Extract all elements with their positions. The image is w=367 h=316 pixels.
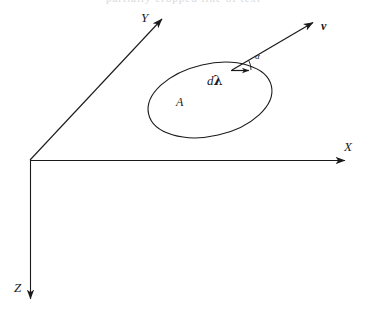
velocity-vector-arrow (232, 23, 313, 71)
diagram-canvas: partially cropped line of text X Y Z (0, 0, 367, 316)
loop-boundary (141, 51, 280, 149)
diagram-vector-graphics (0, 0, 367, 316)
line-element-label: dλ (207, 74, 223, 87)
velocity-vector-label: v (321, 20, 326, 32)
z-axis-label: Z (14, 281, 21, 294)
x-axis-label: X (344, 140, 352, 153)
y-axis-label: Y (141, 11, 148, 24)
line-element-label-lambda: λ (214, 73, 223, 88)
angle-alpha-label: α (255, 52, 260, 61)
area-label: A (176, 96, 183, 108)
y-axis-line (30, 19, 162, 160)
